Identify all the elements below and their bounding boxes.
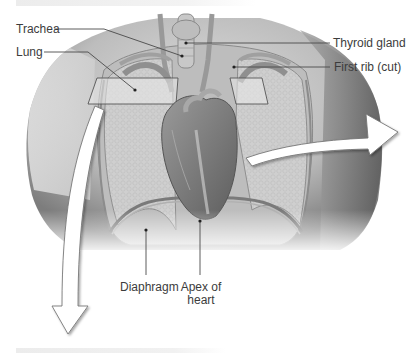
- label-trachea: Trachea: [16, 23, 60, 36]
- label-diaphragm: Diaphragm: [120, 281, 179, 294]
- label-apex-line2: heart: [180, 294, 222, 307]
- section-plane-right: [230, 78, 268, 104]
- thyroid-gland: [172, 20, 200, 40]
- section-plane-left: [88, 78, 178, 104]
- label-thyroid-gland: Thyroid gland: [333, 37, 406, 50]
- label-apex-of-heart: Apex of heart: [180, 281, 222, 307]
- label-first-rib: First rib (cut): [334, 61, 401, 74]
- caption-strip-bottom: [16, 348, 226, 353]
- label-lung: Lung: [16, 46, 43, 59]
